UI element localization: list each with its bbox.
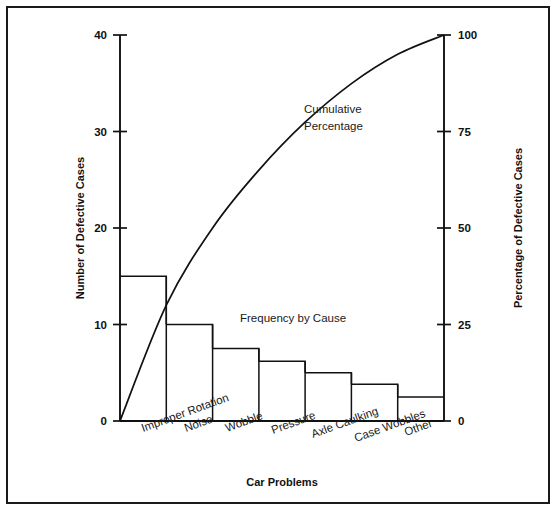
y2-tick-label-25: 25 [458, 319, 471, 331]
x-label-wobble: Wobble [224, 409, 265, 434]
y-tick-label-20: 20 [94, 222, 107, 234]
y2-tick-label-75: 75 [458, 126, 471, 138]
y2-tick-label-0: 0 [458, 415, 464, 427]
bar-pressure [259, 361, 305, 421]
cumulative-percentage-line [120, 35, 444, 421]
y2-tick-label-50: 50 [458, 222, 471, 234]
bar-wobble [213, 349, 259, 421]
bar-improper-rotation [120, 276, 166, 421]
x-category-labels: Improper Rotation Noise Wobble Pressure … [140, 391, 434, 444]
chart-frame: 40 30 20 10 0 100 75 50 25 0 Number of D… [6, 6, 550, 504]
y2-axis-title: Percentage of Defective Cases [512, 148, 524, 308]
frequency-annotation: Frequency by Cause [240, 312, 346, 324]
y-tick-label-0: 0 [101, 415, 107, 427]
y-axis-title: Number of Defective Cases [74, 157, 86, 299]
cumulative-annotation-line1: Cumulative [304, 103, 362, 115]
y2-tick-label-100: 100 [458, 29, 477, 41]
x-axis-title: Car Problems [246, 476, 318, 488]
cumulative-annotation-line2: Percentage [304, 120, 363, 132]
pareto-chart: 40 30 20 10 0 100 75 50 25 0 Number of D… [8, 8, 548, 502]
y-tick-label-10: 10 [94, 319, 107, 331]
y-tick-label-30: 30 [94, 126, 107, 138]
y-tick-label-40: 40 [94, 29, 107, 41]
bars-group [120, 276, 444, 421]
